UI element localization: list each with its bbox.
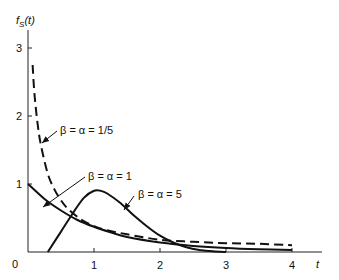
annotation-arrow — [43, 177, 85, 207]
annotation-label: β = α = 1/5 — [60, 124, 113, 136]
y-tick-label: 2 — [16, 110, 22, 122]
x-tick-label: 4 — [289, 259, 295, 271]
x-axis-label: t — [316, 258, 320, 270]
x-tick-label: 1 — [91, 259, 97, 271]
curve-beta-alpha-one-fifth — [33, 65, 292, 245]
annotation-label: β = α = 5 — [138, 188, 182, 200]
annotation-arrow — [124, 196, 134, 210]
chart-canvas: 1234123 β = α = 1/5β = α = 1β = α = 5 fS… — [0, 0, 339, 280]
annotation-arrow — [42, 131, 57, 143]
y-tick-label: 1 — [16, 178, 22, 190]
annotation-label: β = α = 1 — [88, 170, 132, 182]
y-tick-label: 3 — [16, 42, 22, 54]
y-axis-label: fS(t) — [16, 14, 35, 29]
axes — [28, 30, 322, 252]
x-tick-label: 2 — [157, 259, 163, 271]
origin-label: 0 — [12, 258, 18, 270]
curves — [28, 65, 292, 252]
x-tick-label: 3 — [223, 259, 229, 271]
curve-beta-alpha-five — [48, 190, 226, 252]
